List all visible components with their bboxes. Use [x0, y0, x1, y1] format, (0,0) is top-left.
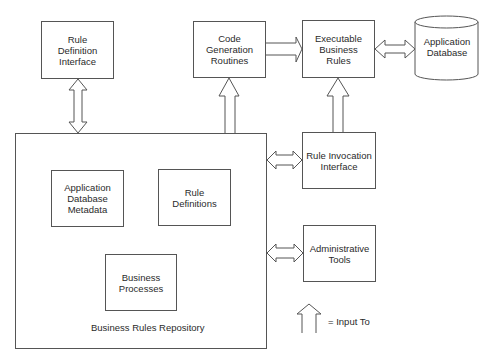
legend-input-to-label: = Input To — [328, 316, 370, 327]
bidirectional-arrow-executable-database — [375, 40, 415, 58]
legend-input-arrow-icon — [297, 304, 321, 333]
application-database-label: Application Database — [415, 36, 479, 58]
input-arrow-repository-codegen-shape — [219, 78, 239, 133]
input-arrow-invocation-executable — [327, 78, 349, 132]
input-arrow-codegen-executable — [266, 37, 302, 62]
bidirectional-arrow-repository-admin — [267, 244, 303, 262]
bidirectional-arrow-repository-invocation — [267, 151, 302, 169]
bidirectional-arrow-rdi-repository — [69, 79, 87, 133]
